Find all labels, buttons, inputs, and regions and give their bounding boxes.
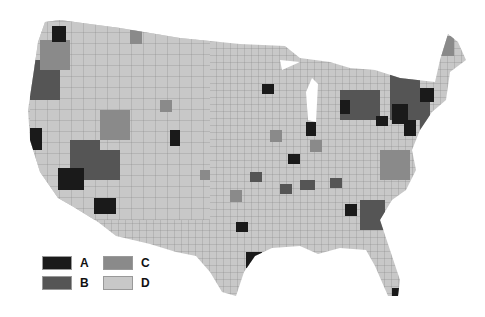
legend-item-c: C [103,256,150,270]
legend-swatch [103,256,133,270]
legend-item-a: A [42,256,89,270]
legend-item-b: B [42,276,89,290]
legend-swatch [103,276,133,290]
legend-item-d: D [103,276,150,290]
legend-label: A [80,256,89,270]
legend-label: B [80,276,89,290]
legend-swatch [42,256,72,270]
legend-swatch [42,276,72,290]
legend-label: C [141,256,150,270]
legend-label: D [141,276,150,290]
map-legend: A B C D [42,256,202,296]
